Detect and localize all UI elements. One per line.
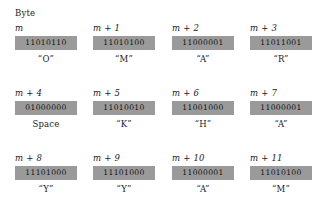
byte-character-label: “K”	[93, 118, 155, 130]
byte-address-label: m + 5	[93, 87, 155, 99]
byte-row: m + 4 01000000 Space m + 5 11010010 “K” …	[0, 87, 327, 152]
byte-address-label: m + 2	[172, 22, 234, 34]
byte-bits: 11010010	[103, 104, 144, 112]
byte-cell: m + 7 11000001 “A”	[250, 87, 312, 130]
byte-bits: 11001000	[182, 104, 223, 112]
byte-character-label: “A”	[172, 183, 234, 195]
byte-address-label: m + 1	[93, 22, 155, 34]
byte-cell: m + 6 11001000 “H”	[172, 87, 234, 130]
byte-address-label: m	[15, 22, 77, 34]
byte-value-box: 11010110	[15, 36, 77, 50]
byte-address-label: m + 11	[250, 152, 312, 164]
byte-address-label: m + 4	[15, 87, 77, 99]
byte-value-box: 11010010	[93, 101, 155, 115]
byte-bits: 11000001	[182, 39, 223, 47]
byte-cell: m + 2 11000001 “A”	[172, 22, 234, 65]
byte-bits: 11000001	[182, 169, 223, 177]
byte-character-label: “Y”	[15, 183, 77, 195]
byte-cell: m 11010110 “O”	[15, 22, 77, 65]
byte-bits: 11010100	[103, 39, 144, 47]
byte-address-label: m + 3	[250, 22, 312, 34]
byte-character-label: Space	[15, 118, 77, 130]
byte-address-label: m + 7	[250, 87, 312, 99]
byte-bits: 11000001	[260, 104, 301, 112]
byte-address-label: m + 9	[93, 152, 155, 164]
byte-cell: m + 1 11010100 “M”	[93, 22, 155, 65]
byte-bits: 01000000	[25, 104, 66, 112]
byte-value-box: 11101000	[93, 166, 155, 180]
byte-value-box: 11010100	[250, 166, 312, 180]
byte-cell: m + 9 11101000 “Y”	[93, 152, 155, 195]
byte-address-label: m + 10	[172, 152, 234, 164]
byte-character-label: “A”	[172, 53, 234, 65]
byte-character-label: “M”	[250, 183, 312, 195]
byte-address-label: m + 8	[15, 152, 77, 164]
byte-value-box: 11000001	[172, 166, 234, 180]
byte-bits: 11010110	[25, 39, 66, 47]
byte-value-box: 01000000	[15, 101, 77, 115]
byte-bits: 11010100	[260, 169, 301, 177]
byte-character-label: “R”	[250, 53, 312, 65]
byte-value-box: 11010100	[93, 36, 155, 50]
byte-value-box: 11000001	[250, 101, 312, 115]
byte-cell: m + 3 11011001 “R”	[250, 22, 312, 65]
byte-value-box: 11000001	[172, 36, 234, 50]
byte-bits: 11101000	[103, 169, 144, 177]
byte-cell: m + 11 11010100 “M”	[250, 152, 312, 195]
byte-bits: 11101000	[25, 169, 66, 177]
byte-cell: m + 8 11101000 “Y”	[15, 152, 77, 195]
byte-character-label: “H”	[172, 118, 234, 130]
byte-cell: m + 4 01000000 Space	[15, 87, 77, 130]
byte-character-label: “O”	[15, 53, 77, 65]
byte-address-label: m + 6	[172, 87, 234, 99]
byte-cell: m + 5 11010010 “K”	[93, 87, 155, 130]
byte-value-box: 11101000	[15, 166, 77, 180]
byte-value-box: 11011001	[250, 36, 312, 50]
byte-cell: m + 10 11000001 “A”	[172, 152, 234, 195]
byte-value-box: 11001000	[172, 101, 234, 115]
byte-row: m 11010110 “O” m + 1 11010100 “M” m + 2 …	[0, 22, 327, 87]
byte-character-label: “Y”	[93, 183, 155, 195]
byte-layout-figure: Byte m 11010110 “O” m + 1 11010100 “M” m…	[0, 0, 327, 221]
byte-row: m + 8 11101000 “Y” m + 9 11101000 “Y” m …	[0, 152, 327, 217]
byte-character-label: “M”	[93, 53, 155, 65]
byte-character-label: “A”	[250, 118, 312, 130]
byte-header-label: Byte	[15, 8, 35, 18]
byte-grid: m 11010110 “O” m + 1 11010100 “M” m + 2 …	[0, 22, 327, 217]
byte-bits: 11011001	[260, 39, 301, 47]
